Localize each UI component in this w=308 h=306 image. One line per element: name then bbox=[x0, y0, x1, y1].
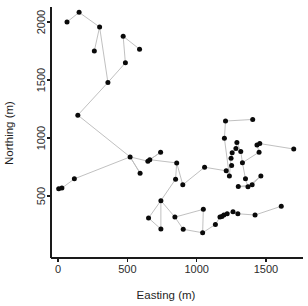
data-point bbox=[222, 136, 227, 141]
y-tick-label: 500 bbox=[35, 187, 47, 205]
data-point bbox=[227, 173, 232, 178]
data-point bbox=[75, 113, 80, 118]
network-edge bbox=[175, 209, 203, 217]
data-point bbox=[225, 211, 230, 216]
network-edge bbox=[177, 163, 183, 185]
network-edge bbox=[260, 144, 294, 149]
data-point bbox=[72, 176, 77, 181]
data-point bbox=[229, 156, 234, 161]
network-edge bbox=[255, 206, 281, 215]
data-point bbox=[258, 173, 263, 178]
network-edge bbox=[203, 209, 204, 232]
network-edge bbox=[78, 115, 130, 157]
y-tick-label: 1500 bbox=[35, 68, 47, 92]
data-point bbox=[128, 154, 133, 159]
x-axis-ticks: 050010001500 bbox=[55, 258, 278, 275]
data-point bbox=[180, 182, 185, 187]
network-edge bbox=[100, 27, 108, 82]
y-axis-title: Northing (m) bbox=[3, 101, 15, 165]
data-point bbox=[238, 149, 243, 154]
network-edge bbox=[94, 27, 99, 51]
data-point bbox=[105, 80, 110, 85]
data-point bbox=[158, 198, 163, 203]
data-point bbox=[253, 213, 258, 218]
figure-container: 050010001500 500100015002000 Easting (m)… bbox=[0, 0, 308, 306]
data-point bbox=[250, 182, 255, 187]
network-edge bbox=[183, 167, 205, 185]
x-tick-label: 1500 bbox=[254, 263, 278, 275]
network-edge bbox=[150, 160, 177, 163]
data-point bbox=[229, 163, 234, 168]
data-point bbox=[234, 140, 239, 145]
data-point bbox=[243, 176, 248, 181]
data-point bbox=[59, 186, 64, 191]
data-point bbox=[257, 150, 262, 155]
data-point bbox=[231, 209, 236, 214]
data-point bbox=[223, 119, 228, 124]
data-point bbox=[92, 48, 97, 53]
x-tick-label: 1000 bbox=[184, 263, 208, 275]
network-edge bbox=[242, 152, 259, 163]
data-point bbox=[236, 184, 241, 189]
data-point bbox=[291, 147, 296, 152]
data-point bbox=[200, 230, 205, 235]
data-point bbox=[201, 207, 206, 212]
network-edge bbox=[226, 119, 253, 121]
data-point bbox=[137, 47, 142, 52]
network-edge bbox=[238, 214, 255, 215]
network-edge bbox=[79, 12, 100, 27]
data-point bbox=[213, 222, 218, 227]
edge-lines-group bbox=[59, 12, 294, 232]
data-point bbox=[97, 24, 102, 29]
data-point bbox=[173, 177, 178, 182]
data-point bbox=[174, 160, 179, 165]
y-tick-label: 2000 bbox=[35, 10, 47, 34]
network-edge bbox=[123, 36, 125, 63]
network-edge bbox=[224, 121, 225, 138]
data-point bbox=[158, 227, 163, 232]
data-point bbox=[138, 171, 143, 176]
data-point bbox=[250, 117, 255, 122]
x-tick-label: 0 bbox=[55, 263, 61, 275]
data-point bbox=[158, 150, 163, 155]
network-edge bbox=[123, 36, 139, 49]
network-edge bbox=[205, 167, 227, 171]
scatter-plot: 050010001500 500100015002000 Easting (m)… bbox=[0, 0, 308, 306]
data-point bbox=[65, 20, 70, 25]
data-point bbox=[147, 157, 152, 162]
network-edge bbox=[74, 157, 130, 179]
data-point bbox=[257, 141, 262, 146]
data-points-group bbox=[56, 10, 296, 235]
data-point bbox=[230, 150, 235, 155]
data-point bbox=[181, 227, 186, 232]
network-edge bbox=[108, 63, 125, 83]
network-edge bbox=[161, 179, 176, 200]
data-point bbox=[235, 211, 240, 216]
x-axis-title: Easting (m) bbox=[137, 289, 196, 301]
y-tick-label: 1000 bbox=[35, 126, 47, 150]
data-point bbox=[202, 165, 207, 170]
y-axis-ticks: 500100015002000 bbox=[35, 10, 51, 205]
data-point bbox=[77, 10, 82, 15]
network-edge bbox=[78, 82, 108, 115]
data-point bbox=[233, 146, 238, 151]
data-point bbox=[123, 60, 128, 65]
x-tick-label: 500 bbox=[118, 263, 136, 275]
network-edge bbox=[161, 201, 175, 217]
network-edge bbox=[149, 201, 161, 218]
data-point bbox=[279, 204, 284, 209]
data-point bbox=[240, 160, 245, 165]
data-point bbox=[172, 215, 177, 220]
data-point bbox=[121, 34, 126, 39]
data-point bbox=[146, 216, 151, 221]
data-point bbox=[224, 168, 229, 173]
network-edge bbox=[183, 229, 202, 232]
